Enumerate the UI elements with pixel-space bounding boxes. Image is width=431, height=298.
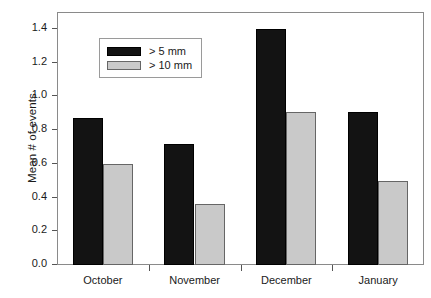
bar <box>103 164 133 265</box>
y-tick-label: 1.0 <box>0 88 47 100</box>
x-tick-mark <box>241 265 242 271</box>
bar <box>164 144 194 265</box>
bar <box>286 112 316 265</box>
y-tick-mark <box>52 95 57 96</box>
y-tick-mark <box>52 28 57 29</box>
bar <box>256 29 286 265</box>
legend-item: > 5 mm <box>107 44 192 58</box>
legend-label: > 10 mm <box>149 59 192 71</box>
x-axis-label: January <box>333 274 423 286</box>
y-tick-label: 1.2 <box>0 55 47 67</box>
y-tick-mark <box>52 197 57 198</box>
x-axis-label: November <box>150 274 240 286</box>
legend-swatch-icon <box>107 47 141 56</box>
y-tick-mark <box>52 163 57 164</box>
x-axis-label: October <box>58 274 148 286</box>
legend: > 5 mm > 10 mm <box>99 38 202 78</box>
y-tick-mark <box>52 230 57 231</box>
y-tick-mark <box>52 62 57 63</box>
legend-swatch-icon <box>107 61 141 70</box>
y-tick-mark <box>52 264 57 265</box>
y-tick-label: 1.4 <box>0 21 47 33</box>
bar <box>348 112 378 265</box>
x-tick-mark <box>332 265 333 271</box>
y-tick-mark <box>52 129 57 130</box>
x-axis-label: December <box>241 274 331 286</box>
x-tick-mark <box>149 265 150 271</box>
y-tick-label: 0.2 <box>0 223 47 235</box>
bar <box>195 204 225 265</box>
y-tick-label: 0.0 <box>0 257 47 269</box>
y-tick-label: 0.4 <box>0 190 47 202</box>
y-tick-label: 0.6 <box>0 156 47 168</box>
legend-label: > 5 mm <box>149 45 186 57</box>
bar <box>378 181 408 265</box>
legend-item: > 10 mm <box>107 58 192 72</box>
bar <box>73 118 103 265</box>
y-tick-label: 0.8 <box>0 122 47 134</box>
bar-chart: Mean # of events 0.00.20.40.60.81.01.21.… <box>0 0 431 298</box>
